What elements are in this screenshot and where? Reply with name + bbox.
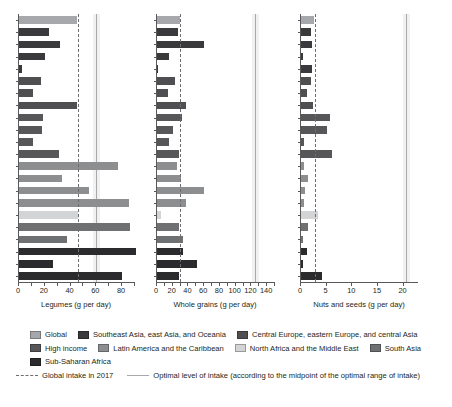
bar bbox=[157, 126, 173, 134]
bar bbox=[19, 138, 33, 146]
x-tick-label: 60 bbox=[199, 286, 207, 295]
legend-swatch-icon bbox=[98, 344, 109, 352]
bars-legumes bbox=[19, 14, 134, 282]
legend-swatch-icon bbox=[30, 344, 41, 352]
plot-area-nuts-and-seeds bbox=[300, 14, 418, 282]
y-tick bbox=[154, 227, 157, 228]
y-tick bbox=[154, 191, 157, 192]
x-axis-title-whole-grains: Whole grains (g per day) bbox=[156, 300, 274, 309]
legend-reference-label: Optimal level of intake (according to th… bbox=[153, 371, 420, 380]
dashed-line-icon bbox=[16, 375, 38, 376]
bar bbox=[19, 162, 118, 170]
x-tick-label: 80 bbox=[215, 286, 223, 295]
bar bbox=[301, 175, 308, 183]
y-tick bbox=[16, 81, 19, 82]
bar bbox=[19, 236, 67, 244]
y-tick bbox=[154, 215, 157, 216]
legend-label: High income bbox=[45, 344, 87, 353]
y-tick bbox=[298, 276, 301, 277]
legend-label: Southeast Asia, east Asia, and Oceania bbox=[93, 330, 226, 339]
legend-swatch-icon bbox=[30, 358, 41, 366]
bar bbox=[301, 77, 311, 85]
y-tick bbox=[298, 191, 301, 192]
y-tick bbox=[154, 44, 157, 45]
y-tick bbox=[298, 57, 301, 58]
y-tick bbox=[154, 20, 157, 21]
bar bbox=[19, 199, 129, 207]
legend-row: GlobalSoutheast Asia, east Asia, and Oce… bbox=[0, 330, 452, 339]
y-tick bbox=[154, 93, 157, 94]
y-tick bbox=[154, 32, 157, 33]
y-tick bbox=[154, 105, 157, 106]
panel-whole-grains: 020406080100120140Whole grains (g per da… bbox=[156, 14, 274, 297]
legend-label: Global bbox=[45, 330, 67, 339]
bar bbox=[157, 65, 158, 73]
bar bbox=[157, 16, 180, 24]
y-tick bbox=[298, 20, 301, 21]
x-tick-label: 140 bbox=[260, 286, 272, 295]
bar bbox=[19, 102, 77, 110]
x-tick-label: 0 bbox=[154, 286, 158, 295]
bar bbox=[19, 150, 59, 158]
y-tick bbox=[298, 69, 301, 70]
bar bbox=[19, 260, 53, 268]
panel-legumes: 020406080Legumes (g per day) bbox=[18, 14, 134, 297]
bar bbox=[157, 175, 181, 183]
x-tick-label: 10 bbox=[347, 286, 355, 295]
x-tick-label: 120 bbox=[244, 286, 256, 295]
bar bbox=[301, 223, 308, 231]
y-tick bbox=[16, 276, 19, 277]
x-tick bbox=[274, 282, 275, 286]
y-tick bbox=[154, 57, 157, 58]
x-tick-label: 20 bbox=[398, 286, 406, 295]
y-tick bbox=[16, 93, 19, 94]
y-tick bbox=[16, 203, 19, 204]
y-tick bbox=[16, 69, 19, 70]
bar bbox=[157, 260, 197, 268]
global-intake-line-legumes bbox=[78, 14, 79, 282]
x-tick-label: 80 bbox=[117, 286, 125, 295]
legend-swatch-icon bbox=[370, 344, 381, 352]
y-tick bbox=[298, 166, 301, 167]
y-tick bbox=[16, 32, 19, 33]
bar bbox=[301, 236, 303, 244]
legend-swatch-icon bbox=[235, 344, 246, 352]
y-tick bbox=[154, 69, 157, 70]
legend-swatch-icon bbox=[78, 331, 89, 339]
y-tick bbox=[298, 118, 301, 119]
y-tick bbox=[154, 178, 157, 179]
y-tick bbox=[154, 130, 157, 131]
y-tick bbox=[298, 203, 301, 204]
y-tick bbox=[16, 239, 19, 240]
bar bbox=[157, 223, 179, 231]
x-tick-labels-nuts-and-seeds: 05101520 bbox=[300, 286, 418, 298]
bar bbox=[157, 28, 178, 36]
x-tick-label: 0 bbox=[16, 286, 20, 295]
y-tick bbox=[298, 105, 301, 106]
y-tick bbox=[16, 215, 19, 216]
bar bbox=[19, 126, 42, 134]
bar bbox=[301, 126, 327, 134]
legend-label: South Asia bbox=[385, 344, 421, 353]
bar bbox=[157, 114, 182, 122]
legend-item: High income bbox=[30, 344, 87, 353]
bar bbox=[157, 53, 169, 61]
y-tick bbox=[298, 239, 301, 240]
y-tick bbox=[298, 81, 301, 82]
bar bbox=[301, 260, 303, 268]
bar bbox=[19, 175, 62, 183]
bar bbox=[301, 102, 313, 110]
y-tick bbox=[16, 166, 19, 167]
legend-item: North Africa and the Middle East bbox=[235, 344, 359, 353]
y-tick bbox=[298, 178, 301, 179]
x-tick-labels-legumes: 020406080 bbox=[18, 286, 134, 298]
bar bbox=[301, 248, 307, 256]
legend-item: South Asia bbox=[370, 344, 421, 353]
legend-item: Central Europe, eastern Europe, and cent… bbox=[237, 330, 417, 339]
bar bbox=[157, 102, 186, 110]
bar bbox=[157, 162, 177, 170]
y-tick bbox=[154, 166, 157, 167]
y-tick bbox=[298, 93, 301, 94]
bar bbox=[301, 150, 332, 158]
y-tick bbox=[16, 57, 19, 58]
